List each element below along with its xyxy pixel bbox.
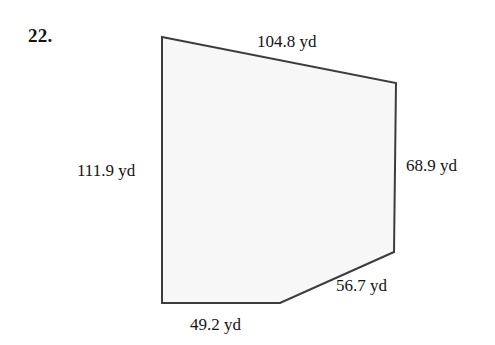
side-label-top: 104.8 yd <box>257 33 317 50</box>
side-label-right: 68.9 yd <box>406 157 457 174</box>
worksheet-page: 22. 104.8 yd 111.9 yd 68.9 yd 56.7 yd 49… <box>0 0 495 345</box>
side-label-bottom-right: 56.7 yd <box>336 277 387 294</box>
side-label-bottom: 49.2 yd <box>190 316 241 333</box>
side-label-left: 111.9 yd <box>77 162 135 179</box>
polygon-shape <box>162 37 396 303</box>
